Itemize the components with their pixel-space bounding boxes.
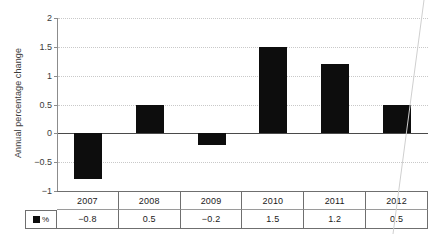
bar bbox=[136, 105, 164, 134]
table-header-cell: 2011 bbox=[304, 191, 366, 210]
table-value-cell: 0.5 bbox=[366, 210, 428, 229]
y-tick-mark bbox=[54, 133, 57, 134]
table-value-cell: −0.2 bbox=[181, 210, 243, 229]
y-tick-label: 2 bbox=[47, 13, 52, 23]
table-header-cell: 2012 bbox=[366, 191, 428, 210]
table-value-cell: 1.2 bbox=[304, 210, 366, 229]
y-tick-label: 1.5 bbox=[39, 42, 52, 52]
bar bbox=[321, 64, 349, 133]
y-tick-label: 0.5 bbox=[39, 100, 52, 110]
gridline bbox=[58, 105, 428, 106]
gridline bbox=[58, 47, 428, 48]
y-tick-label: 1 bbox=[47, 71, 52, 81]
bar-chart-figure: Annual percentage change 21.510.50−0.5−1… bbox=[0, 0, 439, 234]
y-axis-title: Annual percentage change bbox=[13, 23, 23, 183]
gridline bbox=[58, 162, 428, 163]
table-value-row: % −0.8 0.5 −0.2 1.5 1.2 0.5 bbox=[25, 210, 428, 229]
y-tick-mark bbox=[54, 47, 57, 48]
bar bbox=[74, 133, 102, 179]
data-table: 2007 2008 2009 2010 2011 2012 % −0.8 0.5… bbox=[25, 191, 428, 229]
table-header-cell: 2007 bbox=[57, 191, 119, 210]
legend-square-icon bbox=[33, 216, 40, 223]
table-value-cell: −0.8 bbox=[57, 210, 119, 229]
legend-label: % bbox=[42, 215, 49, 224]
table-value-cell: 1.5 bbox=[242, 210, 304, 229]
table-header-cell: 2010 bbox=[242, 191, 304, 210]
bar bbox=[198, 133, 226, 145]
y-tick-mark bbox=[54, 162, 57, 163]
gridline bbox=[58, 18, 428, 19]
y-tick-mark bbox=[54, 18, 57, 19]
y-tick-mark bbox=[54, 76, 57, 77]
y-tick-label: 0 bbox=[47, 128, 52, 138]
table-header-cell: 2009 bbox=[181, 191, 243, 210]
table-header-row: 2007 2008 2009 2010 2011 2012 bbox=[25, 191, 428, 210]
legend-spacer bbox=[25, 191, 57, 210]
y-tick-label: −0.5 bbox=[34, 157, 52, 167]
table-value-cell: 0.5 bbox=[119, 210, 181, 229]
bar bbox=[383, 105, 411, 134]
legend-entry: % bbox=[25, 210, 57, 229]
table-header-cell: 2008 bbox=[119, 191, 181, 210]
bar bbox=[259, 47, 287, 134]
y-tick-mark bbox=[54, 105, 57, 106]
plot-area: 21.510.50−0.5−1 bbox=[57, 18, 428, 191]
zero-line bbox=[58, 133, 428, 134]
gridline bbox=[58, 76, 428, 77]
